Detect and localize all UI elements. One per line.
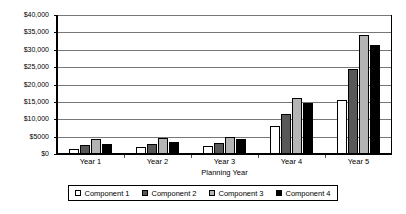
x-axis-tick-label: Year 2 <box>124 157 191 166</box>
bar <box>91 139 102 154</box>
bar <box>80 145 91 154</box>
x-axis-line <box>56 154 392 155</box>
legend-label: Component 2 <box>151 189 196 198</box>
x-axis-tick-mark <box>325 155 326 158</box>
bar <box>303 103 314 154</box>
legend-swatch-icon <box>209 190 215 196</box>
bar <box>236 139 247 154</box>
bar <box>169 142 180 155</box>
y-axis-tick-label: $35,000 <box>24 28 49 36</box>
x-axis-tick-label: Year 5 <box>325 157 392 166</box>
x-axis-tick-label: Year 1 <box>57 157 124 166</box>
bar <box>147 144 158 154</box>
legend-item[interactable]: Component 3 <box>209 189 263 198</box>
x-axis-tick-label: Year 3 <box>191 157 258 166</box>
bar-group <box>337 15 381 154</box>
bar-group <box>69 15 113 154</box>
y-axis-tick-label: $20,000 <box>24 81 49 89</box>
bar-group <box>270 15 314 154</box>
legend-item[interactable]: Component 1 <box>75 189 129 198</box>
bar-group <box>136 15 180 154</box>
bar <box>359 35 370 154</box>
y-axis-tick-label: $25,000 <box>24 63 49 71</box>
y-axis-tick-label: $10,000 <box>24 115 49 123</box>
legend-swatch-icon <box>75 190 81 196</box>
legend-label: Component 3 <box>218 189 263 198</box>
bar <box>348 69 359 154</box>
bar <box>136 147 147 154</box>
bar <box>214 143 225 154</box>
y-axis-tick-label: $5000 <box>30 133 49 141</box>
bar <box>102 144 113 154</box>
y-axis-tick-label: $15,000 <box>24 98 49 106</box>
bar-chart: $0$5000$10,000$15,000$20,000$25,000$30,0… <box>0 0 406 214</box>
legend-swatch-icon <box>276 190 282 196</box>
y-axis-tick-label: $30,000 <box>24 46 49 54</box>
bar <box>270 126 281 154</box>
bar <box>203 146 214 154</box>
bars-layer <box>57 15 392 154</box>
legend-item[interactable]: Component 2 <box>142 189 196 198</box>
legend-swatch-icon <box>142 190 148 196</box>
x-axis-tick-label: Year 4 <box>258 157 325 166</box>
y-axis-tick-label: $0 <box>41 150 49 158</box>
bar <box>225 137 236 154</box>
y-axis-tick-label: $40,000 <box>24 11 49 19</box>
legend-label: Component 1 <box>84 189 129 198</box>
y-axis: $0$5000$10,000$15,000$20,000$25,000$30,0… <box>0 8 53 162</box>
bar <box>292 98 303 154</box>
bar <box>158 138 169 154</box>
x-axis-tick-mark <box>124 155 125 158</box>
x-axis-title: Planning Year <box>57 168 392 177</box>
bar <box>281 114 292 154</box>
legend-item[interactable]: Component 4 <box>276 189 330 198</box>
bar-group <box>203 15 247 154</box>
x-axis-tick-mark <box>191 155 192 158</box>
bar <box>370 45 381 154</box>
x-axis-tick-mark <box>258 155 259 158</box>
legend: Component 1Component 2Component 3Compone… <box>68 185 338 201</box>
bar <box>337 100 348 154</box>
legend-label: Component 4 <box>285 189 330 198</box>
